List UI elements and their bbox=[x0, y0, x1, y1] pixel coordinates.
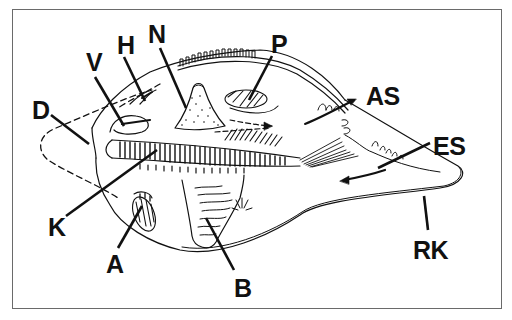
label-v: V bbox=[86, 50, 102, 75]
label-b: B bbox=[234, 276, 252, 301]
flow-arrows bbox=[215, 99, 385, 184]
label-h: H bbox=[117, 33, 135, 58]
atrial-organ bbox=[128, 192, 160, 235]
siphon-papillae bbox=[318, 104, 440, 172]
tunic-outline bbox=[92, 50, 463, 252]
neural-gland bbox=[175, 84, 225, 130]
dorsal-lamina-hatch bbox=[225, 129, 282, 146]
label-a: A bbox=[106, 252, 124, 277]
label-as: AS bbox=[366, 84, 400, 109]
label-es: ES bbox=[433, 134, 465, 159]
branchial-basket bbox=[106, 140, 300, 173]
label-d: D bbox=[32, 98, 50, 123]
siphon-muscle bbox=[300, 138, 358, 167]
ascidian-diagram bbox=[0, 0, 512, 320]
label-rk: RK bbox=[413, 238, 448, 263]
label-p: P bbox=[271, 32, 287, 57]
label-k: K bbox=[48, 215, 66, 240]
dorsal-ridge bbox=[178, 49, 348, 113]
label-n: N bbox=[148, 22, 166, 47]
